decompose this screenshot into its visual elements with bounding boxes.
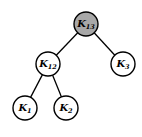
tree-node-k13: K13 — [74, 12, 98, 36]
nodes-layer: K13K12K3K1K2 — [13, 12, 135, 120]
tree-node-k3: K3 — [111, 52, 135, 76]
edge-k13-k3 — [94, 33, 115, 55]
node-label-subscript: 3 — [125, 63, 130, 71]
tree-diagram: K13K12K3K1K2 — [0, 0, 142, 137]
node-label-subscript: 1 — [27, 107, 32, 115]
tree-node-k1: K1 — [13, 96, 37, 120]
tree-node-k12: K12 — [36, 52, 60, 76]
edge-k12-k1 — [31, 75, 43, 98]
edge-k12-k2 — [53, 75, 62, 97]
node-label-subscript: 2 — [67, 107, 73, 115]
node-label-subscript: 13 — [86, 23, 96, 31]
node-label-subscript: 12 — [48, 63, 58, 71]
edge-k13-k12 — [56, 33, 77, 56]
tree-node-k2: K2 — [54, 96, 78, 120]
